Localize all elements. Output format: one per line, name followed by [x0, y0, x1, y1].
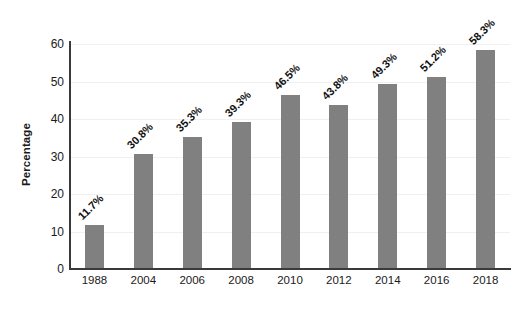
- bar-chart: Percentage 11.7%30.8%35.3%39.3%46.5%43.8…: [0, 0, 530, 309]
- bar-value-label: 58.3%: [467, 17, 498, 48]
- y-axis-tick-label: 20: [4, 187, 64, 201]
- y-axis-line: [69, 41, 71, 270]
- bar-value-label: 49.3%: [369, 51, 400, 82]
- y-axis-tick-label: 50: [4, 75, 64, 89]
- bar[interactable]: [85, 225, 104, 269]
- y-axis-tick-label: 30: [4, 150, 64, 164]
- bar-value-label: 51.2%: [418, 43, 449, 74]
- bar-value-label: 30.8%: [124, 120, 155, 151]
- bar[interactable]: [329, 105, 348, 269]
- bar[interactable]: [183, 137, 202, 269]
- bar-value-label: 43.8%: [320, 71, 351, 102]
- bar[interactable]: [476, 50, 495, 269]
- y-axis-tick-label: 0: [4, 262, 64, 276]
- bar-value-label: 11.7%: [75, 192, 105, 222]
- plot-area: 11.7%30.8%35.3%39.3%46.5%43.8%49.3%51.2%…: [70, 44, 510, 269]
- x-axis-tick-label: 2018: [456, 274, 516, 286]
- bar[interactable]: [427, 77, 446, 269]
- bar[interactable]: [378, 84, 397, 269]
- gridline: [70, 44, 510, 45]
- bar[interactable]: [134, 154, 153, 270]
- y-axis-tick-label: 60: [4, 37, 64, 51]
- bar[interactable]: [232, 122, 251, 269]
- y-axis-tick-label: 10: [4, 225, 64, 239]
- bar[interactable]: [281, 95, 300, 269]
- x-axis-line: [70, 268, 511, 270]
- bar-value-label: 39.3%: [222, 88, 253, 119]
- bar-value-label: 46.5%: [271, 61, 302, 92]
- y-axis-tick-label: 40: [4, 112, 64, 126]
- y-axis-tick-labels: 0102030405060: [0, 0, 64, 309]
